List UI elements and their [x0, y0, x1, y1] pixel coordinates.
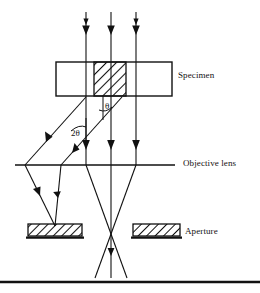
label-angle-two-theta: 2θ [71, 128, 80, 138]
transmitted-ray-right [132, 96, 140, 165]
label-objective-lens: Objective lens [183, 158, 236, 168]
converging-ray-left [86, 165, 111, 234]
incident-ray-center [107, 12, 115, 62]
ray-diagram-figure: Specimen Objective lens Aperture θ 2θ [0, 0, 260, 293]
ray-diagram-canvas [0, 0, 260, 293]
label-angle-theta: θ [105, 101, 109, 111]
label-aperture: Aperture [185, 226, 218, 236]
aperture-stop-right [131, 224, 182, 238]
label-specimen: Specimen [178, 70, 214, 80]
aperture-stop-left [26, 224, 84, 238]
diverging-ray-left [95, 234, 111, 278]
incident-ray-right [132, 12, 140, 62]
converging-ray-right [111, 165, 136, 234]
refracted-ray-outer-left [25, 165, 55, 226]
incident-ray-left [82, 12, 90, 62]
diverging-ray-right [111, 234, 127, 278]
specimen-box [56, 62, 172, 96]
refracted-ray-inner-left [53, 165, 61, 226]
